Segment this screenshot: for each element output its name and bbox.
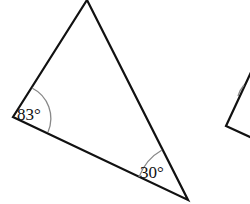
angle-label-bottom-right: 30°	[140, 163, 164, 182]
partial-triangle	[226, 70, 250, 138]
angle-label-left: 83°	[17, 105, 41, 124]
diagram-canvas: 83° 30°	[0, 0, 250, 204]
